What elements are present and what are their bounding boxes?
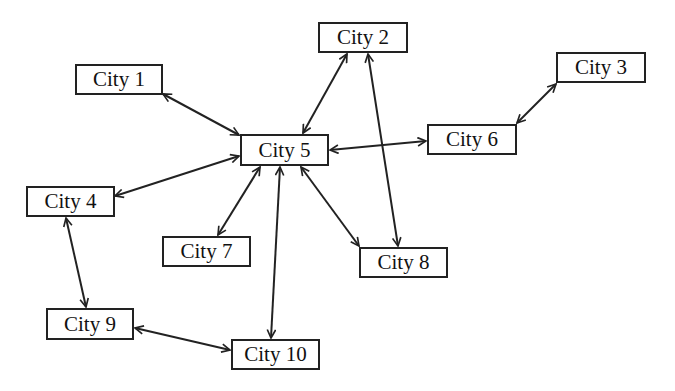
- node-city-4: City 4: [26, 186, 115, 217]
- node-label: City 5: [259, 140, 311, 161]
- node-label: City 2: [337, 27, 389, 48]
- node-city-7: City 7: [162, 236, 251, 267]
- node-label: City 6: [446, 129, 498, 150]
- edge-city-4-to-city-5: [115, 156, 239, 196]
- node-city-10: City 10: [231, 339, 320, 370]
- edges-group: [66, 54, 556, 350]
- edge-city-5-to-city-10: [271, 167, 280, 338]
- edge-city-3-to-city-6: [517, 84, 556, 123]
- node-label: City 7: [181, 241, 233, 262]
- node-city-2: City 2: [318, 22, 408, 53]
- edge-city-4-to-city-9: [66, 218, 86, 307]
- edge-city-1-to-city-5: [163, 94, 239, 135]
- node-city-1: City 1: [75, 64, 163, 95]
- edge-city-9-to-city-10: [135, 328, 230, 350]
- node-city-5: City 5: [240, 134, 329, 166]
- edge-city-2-to-city-5: [303, 54, 347, 133]
- node-city-9: City 9: [46, 308, 134, 340]
- node-label: City 8: [378, 252, 430, 273]
- edge-city-5-to-city-8: [301, 167, 359, 246]
- edge-city-5-to-city-7: [218, 167, 260, 235]
- node-city-3: City 3: [556, 52, 646, 83]
- edge-city-5-to-city-6: [330, 141, 426, 150]
- edge-city-2-to-city-8: [368, 54, 398, 246]
- node-label: City 10: [244, 344, 306, 365]
- node-label: City 9: [64, 314, 116, 335]
- node-city-8: City 8: [359, 247, 448, 278]
- node-city-6: City 6: [427, 124, 517, 155]
- node-label: City 4: [45, 191, 97, 212]
- node-label: City 1: [93, 69, 145, 90]
- node-label: City 3: [575, 57, 627, 78]
